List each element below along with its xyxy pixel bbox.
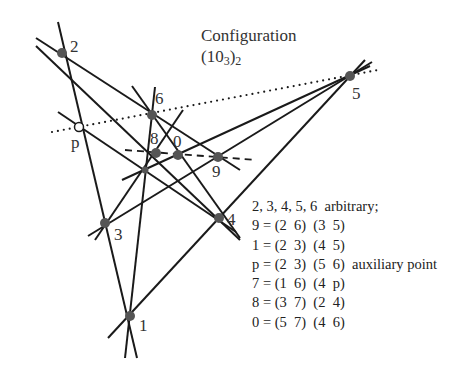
point-5 — [345, 71, 355, 81]
point-label-8: 8 — [150, 130, 159, 148]
legend-line: 9 = (2 6) (3 5) — [252, 216, 437, 235]
point-label-2: 2 — [70, 38, 79, 56]
legend-line: 2, 3, 4, 5, 6 arbitrary; — [252, 197, 437, 216]
legend-line: 7 = (1 6) (4 p) — [252, 274, 437, 293]
point-p — [75, 123, 84, 132]
point-label-p: p — [71, 134, 80, 152]
point-label-1: 1 — [139, 317, 148, 335]
legend-line: 8 = (3 7) (2 4) — [252, 293, 437, 312]
point-label-6: 6 — [155, 90, 164, 108]
point-7 — [142, 167, 149, 174]
diagram-subtitle: (103)2 — [201, 47, 241, 71]
point-6 — [147, 110, 157, 120]
legend-line: 1 = (2 3) (4 5) — [252, 236, 437, 255]
point-9 — [213, 152, 223, 162]
legend-line: 0 = (5 7) (4 6) — [252, 313, 437, 332]
point-label-0: 0 — [173, 133, 182, 151]
line-8-0-9 — [125, 150, 256, 160]
legend-line: p = (2 3) (5 6) auxiliary point — [252, 255, 437, 274]
line-2-8-4 — [36, 46, 240, 240]
point-2 — [57, 48, 67, 58]
point-4 — [214, 213, 224, 223]
point-label-3: 3 — [114, 226, 123, 244]
point-1 — [125, 311, 135, 321]
construction-legend: 2, 3, 4, 5, 6 arbitrary; 9 = (2 6) (3 5)… — [252, 197, 437, 332]
point-3 — [100, 218, 110, 228]
diagram-title: Configuration — [201, 26, 296, 46]
point-0 — [173, 150, 183, 160]
point-label-4: 4 — [227, 211, 236, 229]
line-2-p-3-1 — [58, 22, 137, 358]
point-8 — [151, 148, 161, 158]
point-label-5: 5 — [352, 85, 361, 103]
point-label-9: 9 — [212, 163, 221, 181]
